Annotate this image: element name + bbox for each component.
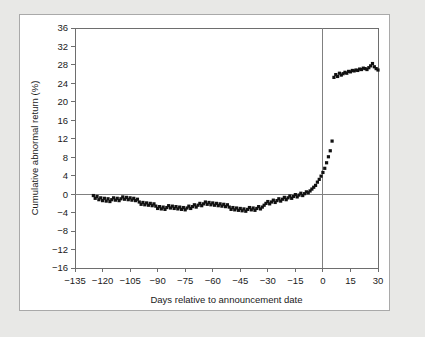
reference-lines <box>75 28 378 268</box>
y-tick-label: 32 <box>57 41 68 52</box>
y-tick-label: −4 <box>57 207 68 218</box>
x-tick-label: −75 <box>177 275 193 286</box>
x-tick-label: −120 <box>92 275 113 286</box>
y-tick-label: −12 <box>52 244 68 255</box>
data-point <box>329 149 332 152</box>
x-tick-label: −15 <box>287 275 303 286</box>
data-point <box>136 198 139 201</box>
x-axis-title: Days relative to announcement date <box>150 294 302 305</box>
y-tick-label: 4 <box>63 170 68 181</box>
data-point <box>319 175 322 178</box>
data-point <box>323 167 326 170</box>
data-point <box>376 68 379 71</box>
data-point <box>92 194 95 197</box>
y-axis-title: Cumulative abnormal return (%) <box>29 81 40 216</box>
data-point <box>316 181 319 184</box>
x-tick-label: −30 <box>260 275 276 286</box>
y-tick-label: 24 <box>57 78 68 89</box>
x-tick-label: −105 <box>119 275 140 286</box>
y-tick-label: 8 <box>63 152 68 163</box>
data-point <box>336 75 339 78</box>
y-tick-label: 12 <box>57 133 68 144</box>
data-point <box>99 196 102 199</box>
data-point <box>330 139 333 142</box>
data-series-markers <box>92 62 380 213</box>
y-tick-label: 0 <box>63 189 68 200</box>
x-tick-label: −90 <box>150 275 166 286</box>
data-point <box>314 184 317 187</box>
y-axis-ticks: −16−12−8−404812162024283236 <box>52 22 75 273</box>
y-tick-label: 16 <box>57 115 68 126</box>
axis-titles: Days relative to announcement dateCumula… <box>29 81 303 305</box>
x-tick-label: 15 <box>345 275 356 286</box>
y-tick-label: 20 <box>57 96 68 107</box>
x-tick-label: 0 <box>320 275 325 286</box>
chart-svg: −135−120−105−90−75−60−45−30−1501530 −16−… <box>20 15 389 310</box>
data-point <box>332 76 335 79</box>
data-point <box>103 197 106 200</box>
x-axis-ticks: −135−120−105−90−75−60−45−30−1501530 <box>64 268 383 286</box>
x-tick-label: −60 <box>205 275 221 286</box>
x-tick-label: −45 <box>232 275 248 286</box>
data-point <box>106 197 109 200</box>
plot-area-border <box>75 28 378 268</box>
y-tick-label: −8 <box>57 225 68 236</box>
data-point <box>371 62 374 65</box>
data-point <box>318 178 321 181</box>
x-tick-label: −135 <box>64 275 85 286</box>
y-tick-label: 36 <box>57 22 68 33</box>
data-point <box>95 195 98 198</box>
data-point <box>327 155 330 158</box>
figure-panel: −135−120−105−90−75−60−45−30−1501530 −16−… <box>19 14 390 311</box>
plot-frame <box>75 28 378 268</box>
cumulative-abnormal-return-chart: −135−120−105−90−75−60−45−30−1501530 −16−… <box>20 15 389 310</box>
y-tick-label: 28 <box>57 59 68 70</box>
data-point <box>321 171 324 174</box>
y-tick-label: −16 <box>52 262 68 273</box>
x-tick-label: 30 <box>373 275 384 286</box>
data-point <box>325 161 328 164</box>
